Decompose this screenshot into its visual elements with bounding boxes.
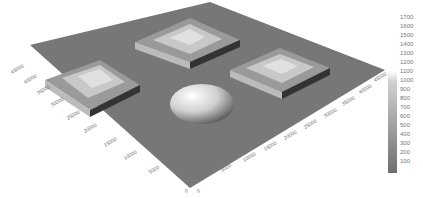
dome <box>170 84 234 124</box>
svg-text:1600: 1600 <box>400 23 414 29</box>
svg-text:1700: 1700 <box>400 14 414 20</box>
svg-text:1200: 1200 <box>400 59 414 65</box>
svg-text:400: 400 <box>400 131 411 137</box>
svg-text:40000: 40000 <box>23 73 38 85</box>
colorbar: 1700 1600 1500 1400 1300 1200 1100 1000 … <box>388 8 414 173</box>
svg-text:15000: 15000 <box>103 136 118 148</box>
svg-text:5000: 5000 <box>148 164 161 175</box>
svg-text:35000: 35000 <box>36 84 51 96</box>
svg-text:35000: 35000 <box>341 95 356 107</box>
svg-text:500: 500 <box>400 122 411 128</box>
surface-plot: 0 5000 10000 15000 20000 25000 30000 350… <box>0 0 423 198</box>
svg-text:1400: 1400 <box>400 41 414 47</box>
svg-text:45000: 45000 <box>10 63 25 75</box>
svg-text:300: 300 <box>400 140 411 146</box>
svg-text:20000: 20000 <box>83 122 98 134</box>
svg-text:600: 600 <box>400 113 411 119</box>
svg-text:1500: 1500 <box>400 32 414 38</box>
svg-text:700: 700 <box>400 104 411 110</box>
svg-text:25000: 25000 <box>66 109 81 121</box>
svg-text:1100: 1100 <box>400 68 414 74</box>
svg-text:0: 0 <box>196 187 202 194</box>
svg-text:100: 100 <box>400 158 411 164</box>
svg-text:900: 900 <box>400 86 411 92</box>
svg-text:0: 0 <box>184 187 190 194</box>
svg-text:25000: 25000 <box>303 118 318 130</box>
svg-text:1300: 1300 <box>400 50 414 56</box>
svg-text:30000: 30000 <box>50 96 65 108</box>
svg-text:200: 200 <box>400 149 411 155</box>
svg-text:10000: 10000 <box>123 149 138 161</box>
svg-text:1000: 1000 <box>400 77 414 83</box>
svg-text:800: 800 <box>400 95 411 101</box>
svg-text:30000: 30000 <box>323 107 338 119</box>
